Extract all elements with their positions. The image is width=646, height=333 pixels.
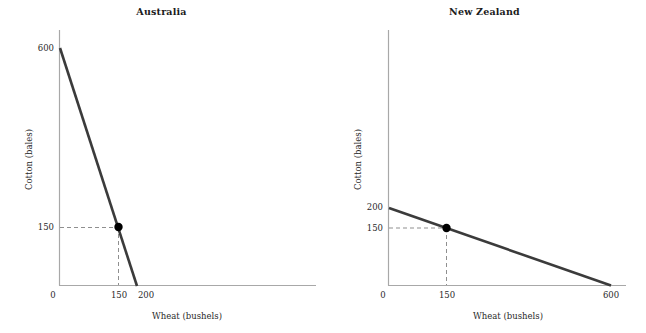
- x-tick-label-0: 0: [45, 290, 61, 300]
- ppf-line-australia: [60, 48, 137, 286]
- production-point-marker: [442, 224, 450, 232]
- x-tick-label-150: 150: [434, 290, 460, 300]
- ppf-line-new-zealand: [389, 208, 611, 286]
- y-tick-label-150: 150: [341, 223, 383, 233]
- y-axis-title-australia: Cotton (bales): [24, 129, 34, 190]
- production-point-marker: [114, 223, 122, 231]
- y-tick-label-200: 200: [341, 202, 383, 212]
- ppf-figure: Australia 600 150 0 150 200 Wheat (bushe…: [0, 0, 646, 333]
- panel-australia: Australia 600 150 0 150 200 Wheat (bushe…: [0, 0, 323, 333]
- y-tick-label-150: 150: [12, 222, 54, 232]
- y-axis-title-new-zealand: Cotton (bales): [353, 129, 363, 190]
- new-zealand-plot-svg: [323, 0, 646, 333]
- x-axis-title-australia: Wheat (bushels): [132, 311, 242, 321]
- x-tick-label-600: 600: [598, 290, 624, 300]
- y-tick-label-600: 600: [12, 43, 54, 53]
- x-tick-label-150: 150: [106, 290, 132, 300]
- panel-new-zealand: New Zealand 200 150 0 150 600 Wheat (bus…: [323, 0, 646, 333]
- x-axis-title-new-zealand: Wheat (bushels): [453, 311, 563, 321]
- x-tick-label-0: 0: [375, 290, 391, 300]
- x-tick-label-200: 200: [133, 290, 159, 300]
